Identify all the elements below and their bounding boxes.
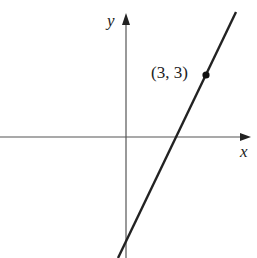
x-axis-arrow-icon (240, 133, 251, 141)
x-axis-label: x (240, 143, 248, 160)
point-marker (202, 71, 209, 78)
y-axis-label: y (107, 12, 115, 29)
plotted-line (118, 12, 236, 258)
point-label: (3, 3) (151, 64, 188, 81)
y-axis-arrow-icon (122, 13, 130, 25)
graph-canvas (0, 0, 257, 258)
graph-figure: y x (3, 3) (0, 0, 257, 258)
